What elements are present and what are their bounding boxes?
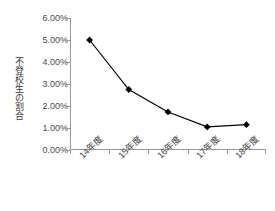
data-point-marker — [204, 124, 211, 131]
data-point-marker — [165, 109, 172, 116]
y-axis-tick-labels: 6.00%5.00%4.00%3.00%2.00%1.00%0.00% — [26, 18, 68, 150]
data-point-marker — [243, 121, 250, 128]
x-axis-tick-labels: 14年度15年度16年度17年度18年度 — [70, 152, 275, 210]
y-axis-tick-label: 1.00% — [26, 123, 68, 133]
y-axis-tick-label: 0.00% — [26, 145, 68, 155]
data-series-line — [70, 18, 266, 150]
y-axis-tick-label: 2.00% — [26, 101, 68, 111]
y-axis-tick-label: 6.00% — [26, 13, 68, 23]
y-axis-title: 不登校生の割合 — [8, 28, 24, 148]
y-axis-tick-label: 3.00% — [26, 79, 68, 89]
y-axis-tick-label: 4.00% — [26, 57, 68, 67]
y-axis-tick-label: 5.00% — [26, 35, 68, 45]
line-chart: 不登校生の割合 6.00%5.00%4.00%3.00%2.00%1.00%0.… — [0, 0, 275, 211]
plot-area — [70, 18, 266, 150]
